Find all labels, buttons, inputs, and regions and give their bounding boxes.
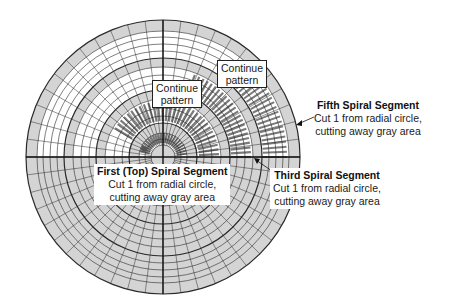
continue-pattern-callout-outer: Continue pattern [217,60,267,88]
label-line: cutting away gray area [273,195,381,208]
label-line: cutting away gray area [97,191,227,204]
first-spiral-segment-label: First (Top) Spiral Segment Cut 1 from ra… [94,164,230,205]
callout-text: Continue [221,62,263,74]
radial-circle-grid [0,0,449,307]
callout-text: pattern [221,74,263,86]
label-title: First (Top) Spiral Segment [97,165,227,178]
third-spiral-segment-label: Third Spiral Segment Cut 1 from radial c… [270,168,384,209]
label-title: Fifth Spiral Segment [314,99,422,112]
label-line: Cut 1 from radial circle, [273,182,381,195]
label-line: cutting away gray area [314,125,422,138]
fifth-spiral-segment-label: Fifth Spiral Segment Cut 1 from radial c… [314,99,422,138]
label-title: Third Spiral Segment [273,169,381,182]
label-line: Cut 1 from radial circle, [314,112,422,125]
callout-text: Continue [156,82,198,94]
label-line: Cut 1 from radial circle, [97,178,227,191]
spiral-diagram: Continue pattern Continue pattern Fifth … [0,0,449,307]
callout-text: pattern [156,94,198,106]
continue-pattern-callout-inner: Continue pattern [152,80,202,108]
